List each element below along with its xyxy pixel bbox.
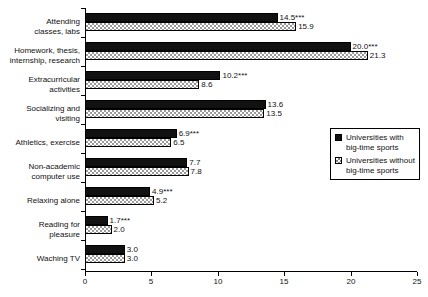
category-label: Athletics, exercise bbox=[0, 138, 80, 148]
category-label: Homework, thesis, internship, research bbox=[0, 46, 80, 65]
x-axis-tick bbox=[351, 272, 352, 276]
bar-value-label: 8.6 bbox=[201, 80, 212, 89]
x-axis-tick-label: 5 bbox=[136, 277, 166, 287]
bar-value-label: 20.0*** bbox=[353, 42, 378, 51]
bar-with-big-time-sports bbox=[85, 129, 177, 138]
bar-value-label: 13.5 bbox=[266, 109, 282, 118]
bar-value-label: 6.9*** bbox=[179, 129, 199, 138]
bar-without-big-time-sports bbox=[85, 22, 296, 31]
x-axis-tick bbox=[218, 272, 219, 276]
y-axis-tick bbox=[81, 66, 85, 67]
legend-label: Universities without big-time sports bbox=[346, 156, 415, 175]
category-label: Socializing and visiting bbox=[0, 104, 80, 123]
category-label: Waching TV bbox=[0, 254, 80, 264]
bar-with-big-time-sports bbox=[85, 42, 351, 51]
x-axis-tick-label: 0 bbox=[70, 277, 100, 287]
x-axis-tick bbox=[284, 272, 285, 276]
x-axis-tick-label: 20 bbox=[336, 277, 366, 287]
legend-item-without-big-time-sports: Universities without big-time sports bbox=[335, 156, 416, 175]
y-axis-tick bbox=[81, 37, 85, 38]
bar-without-big-time-sports bbox=[85, 196, 154, 205]
bar-value-label: 13.6 bbox=[268, 100, 284, 109]
y-axis-tick bbox=[81, 211, 85, 212]
bar-value-label: 7.7 bbox=[189, 158, 200, 167]
y-axis-tick bbox=[81, 153, 85, 154]
legend-item-with-big-time-sports: Universities with big-time sports bbox=[335, 133, 416, 152]
y-axis-tick bbox=[81, 95, 85, 96]
bar-value-label: 5.2 bbox=[156, 196, 167, 205]
bar-without-big-time-sports bbox=[85, 167, 189, 176]
bar-value-label: 21.3 bbox=[370, 51, 386, 60]
y-axis-tick bbox=[81, 8, 85, 9]
bar-value-label: 4.9*** bbox=[152, 187, 172, 196]
x-axis-line bbox=[85, 271, 417, 272]
x-axis-tick-label: 10 bbox=[203, 277, 233, 287]
bar-value-label: 10.2*** bbox=[222, 71, 247, 80]
bar-value-label: 1.7*** bbox=[110, 216, 130, 225]
bar-value-label: 14.5*** bbox=[280, 13, 305, 22]
bar-without-big-time-sports bbox=[85, 254, 125, 263]
x-axis-tick bbox=[151, 272, 152, 276]
category-label: Reading for pleasure bbox=[0, 220, 80, 239]
bar-value-label: 7.8 bbox=[191, 167, 202, 176]
bar-value-label: 3.0 bbox=[127, 254, 138, 263]
category-label: Extracurricular activities bbox=[0, 75, 80, 94]
bar-chart: Attending classes, labs Homework, thesis… bbox=[0, 0, 428, 297]
x-axis-tick-label: 15 bbox=[269, 277, 299, 287]
bar-without-big-time-sports bbox=[85, 109, 264, 118]
y-axis-tick bbox=[81, 124, 85, 125]
bar-value-label: 15.9 bbox=[298, 22, 314, 31]
category-label: Relaxing alone bbox=[0, 196, 80, 206]
legend-swatch-pattern-icon bbox=[335, 157, 342, 164]
legend-label: Universities with big-time sports bbox=[346, 133, 404, 152]
bar-with-big-time-sports bbox=[85, 13, 278, 22]
y-axis-tick bbox=[81, 182, 85, 183]
bar-with-big-time-sports bbox=[85, 71, 220, 80]
bar-with-big-time-sports bbox=[85, 158, 187, 167]
x-axis-tick-label: 25 bbox=[402, 277, 428, 287]
bar-without-big-time-sports bbox=[85, 138, 171, 147]
bar-without-big-time-sports bbox=[85, 225, 112, 234]
bar-without-big-time-sports bbox=[85, 80, 199, 89]
bar-value-label: 3.0 bbox=[127, 245, 138, 254]
bar-without-big-time-sports bbox=[85, 51, 368, 60]
bar-value-label: 2.0 bbox=[114, 225, 125, 234]
bar-with-big-time-sports bbox=[85, 187, 150, 196]
chart-legend: Universities with big-time sports Univer… bbox=[330, 128, 420, 180]
bar-with-big-time-sports bbox=[85, 100, 266, 109]
bar-value-label: 6.5 bbox=[173, 138, 184, 147]
y-axis-tick bbox=[81, 269, 85, 270]
category-label: Attending classes, labs bbox=[0, 17, 80, 36]
bar-with-big-time-sports bbox=[85, 216, 108, 225]
x-axis-tick bbox=[85, 272, 86, 276]
bar-with-big-time-sports bbox=[85, 245, 125, 254]
y-axis-tick bbox=[81, 240, 85, 241]
x-axis-tick bbox=[417, 272, 418, 276]
legend-swatch-solid-icon bbox=[335, 134, 342, 141]
category-label: Non-academic computer use bbox=[0, 162, 80, 181]
